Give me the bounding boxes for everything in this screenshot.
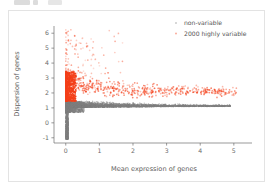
legend-label: 2000 highly variable (184, 30, 247, 38)
toolbar-chrome-blob-a (14, 0, 30, 5)
axes-layer: 012345-10123456Mean expression of genesD… (13, 26, 252, 173)
x-tick-label: 5 (232, 147, 236, 154)
y-tick-label: 1 (45, 104, 49, 111)
toolbar-strip (0, 0, 274, 8)
plot-legend: non-variable2000 highly variable (175, 19, 247, 38)
y-tick-label: 4 (45, 59, 49, 66)
y-tick-label: 0 (45, 119, 49, 126)
x-tick-label: 4 (198, 147, 202, 154)
y-axis-title: Dispersion of genes (13, 51, 21, 117)
legend-marker (175, 22, 177, 24)
x-tick-label: 3 (165, 147, 169, 154)
plot-output-card: 012345-10123456Mean expression of genesD… (8, 10, 265, 182)
data-points-layer (65, 29, 237, 140)
toolbar-chrome-blob-b (33, 0, 38, 5)
y-tick-label: 2 (45, 89, 49, 96)
scatter-plot: 012345-10123456Mean expression of genesD… (9, 11, 264, 181)
y-tick-label: 6 (45, 29, 49, 36)
y-tick-label: -1 (43, 134, 49, 141)
x-tick-label: 2 (131, 147, 135, 154)
y-tick-label: 5 (45, 44, 49, 51)
toolbar-chrome-blob-c (48, 0, 62, 5)
legend-marker (175, 33, 177, 35)
x-tick-label: 1 (97, 147, 101, 154)
legend-label: non-variable (184, 19, 222, 26)
plot-svg: 012345-10123456Mean expression of genesD… (9, 11, 264, 181)
x-axis-title: Mean expression of genes (111, 165, 198, 173)
x-tick-label: 0 (64, 147, 68, 154)
y-tick-label: 3 (45, 74, 49, 81)
